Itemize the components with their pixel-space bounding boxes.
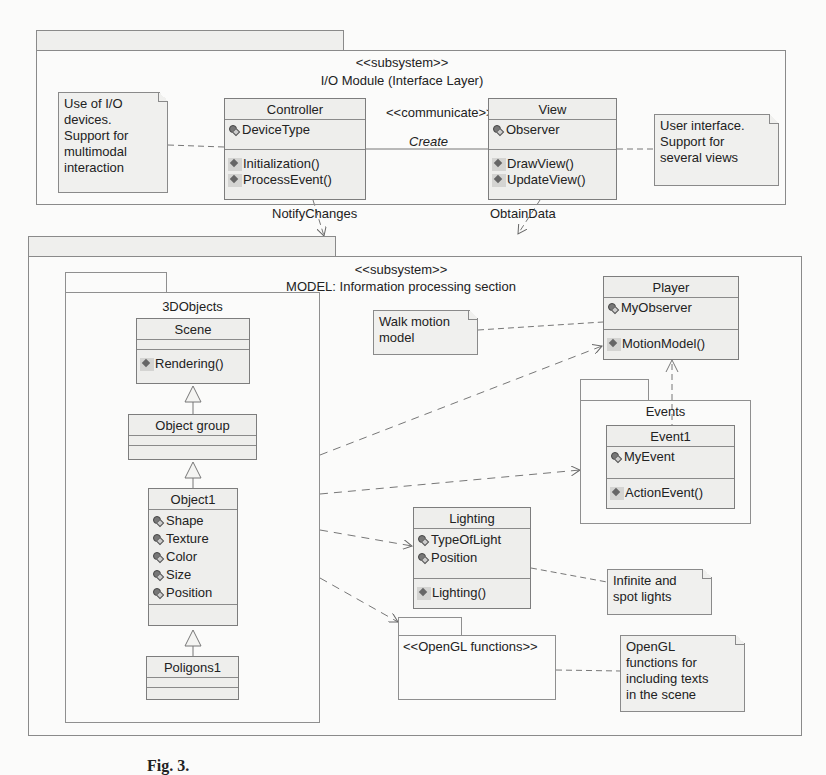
opengl-package-name: <<OpenGL functions>> (403, 639, 538, 654)
opengl-package-tab (398, 617, 462, 636)
note-walk-motion: Walk motion model (373, 310, 478, 355)
class-name: View (489, 99, 616, 120)
operation-icon (228, 158, 242, 171)
attribute-icon (152, 551, 165, 563)
attribute-icon (610, 451, 623, 463)
attribute-position: Position (152, 584, 234, 602)
class-view[interactable]: View Observer DrawView() UpdateView() (488, 98, 617, 200)
association-stereotype: <<communicate>> (386, 105, 494, 120)
events-package-tab (580, 379, 649, 401)
attribute-observer: Observer (492, 122, 613, 138)
dependency-notifychanges: NotifyChanges (272, 206, 357, 221)
io-stereotype: <<subsystem>> (37, 55, 767, 70)
class-object-group[interactable]: Object group (128, 414, 257, 460)
operation-actionevent: ActionEvent() (610, 485, 731, 501)
class-lighting[interactable]: Lighting TypeOfLight Position Lighting() (413, 507, 531, 609)
attribute-icon (417, 552, 430, 564)
operation-icon (417, 587, 431, 600)
class-name: Controller (225, 99, 365, 120)
attribute-icon (152, 569, 165, 581)
note-line: Walk motion (379, 314, 472, 330)
attribute-myevent: MyEvent (610, 449, 731, 465)
note-line: OpenGL (626, 639, 739, 655)
class-poligons1[interactable]: Poligons1 (146, 656, 239, 700)
operation-icon (492, 174, 506, 187)
attribute-icon (152, 515, 165, 527)
class-name: Poligons1 (147, 657, 238, 678)
attribute-color: Color (152, 548, 234, 566)
operation-icon (492, 158, 506, 171)
note-line: functions for (626, 655, 739, 671)
class-name: Event1 (607, 426, 734, 447)
objects-package-tab (65, 272, 167, 293)
note-line: interaction (64, 160, 162, 176)
opengl-package: <<OpenGL functions>> (398, 635, 556, 700)
io-title: I/O Module (Interface Layer) (37, 73, 767, 88)
note-line: spot lights (613, 589, 706, 605)
note-lights: Infinite and spot lights (607, 569, 712, 615)
note-line: including texts (626, 671, 739, 687)
attribute-icon (607, 302, 620, 314)
io-package-tab (36, 30, 344, 51)
class-controller[interactable]: Controller DeviceType Initialization() P… (224, 98, 366, 200)
operation-motionmodel: MotionModel() (607, 336, 735, 352)
attribute-position: Position (417, 549, 527, 567)
attribute-icon (228, 124, 241, 136)
operation-processevent: ProcessEvent() (228, 172, 362, 188)
attribute-texture: Texture (152, 530, 234, 548)
attribute-size: Size (152, 566, 234, 584)
class-name: Scene (137, 319, 249, 340)
operation-drawview: DrawView() (492, 156, 613, 172)
class-event1[interactable]: Event1 MyEvent ActionEvent() (606, 425, 735, 509)
operation-icon (607, 338, 621, 351)
class-name: Object group (129, 415, 256, 436)
class-name: Lighting (414, 508, 530, 529)
operation-initialization: Initialization() (228, 156, 362, 172)
note-user-interface: User interface. Support for several view… (654, 114, 779, 186)
note-line: in the scene (626, 687, 739, 703)
class-object1[interactable]: Object1 Shape Texture Color Size Positio… (148, 488, 238, 626)
model-package-tab (28, 236, 336, 257)
association-name: Create (409, 134, 448, 149)
note-line: Support for (64, 128, 162, 144)
attribute-shape: Shape (152, 512, 234, 530)
class-name: Player (604, 277, 738, 298)
class-name: Object1 (149, 489, 237, 510)
attribute-devicetype: DeviceType (228, 122, 362, 138)
events-package-name: Events (581, 404, 750, 419)
attribute-icon (492, 124, 505, 136)
attribute-icon (152, 587, 165, 599)
note-line: devices. (64, 112, 162, 128)
objects-package-name: 3DObjects (66, 299, 319, 314)
class-player[interactable]: Player MyObserver MotionModel() (603, 276, 739, 360)
figure-caption: Fig. 3. (147, 757, 189, 775)
operation-rendering: Rendering() (140, 356, 246, 372)
note-line: Infinite and (613, 573, 706, 589)
dependency-obtaindata: ObtainData (490, 206, 556, 221)
operation-icon (610, 487, 624, 500)
note-line: multimodal (64, 144, 162, 160)
attribute-typeoflight: TypeOfLight (417, 531, 527, 549)
attribute-icon (152, 533, 165, 545)
note-opengl: OpenGL functions for including texts in … (620, 635, 745, 712)
class-scene[interactable]: Scene Rendering() (136, 318, 250, 384)
note-io-devices: Use of I/O devices. Support for multimod… (58, 92, 168, 193)
note-line: User interface. (660, 118, 773, 134)
note-line: Support for (660, 134, 773, 150)
note-line: several views (660, 150, 773, 166)
attribute-myobserver: MyObserver (607, 300, 735, 316)
attribute-icon (417, 534, 430, 546)
note-line: Use of I/O (64, 96, 162, 112)
operation-lighting: Lighting() (417, 585, 527, 601)
operation-icon (140, 358, 154, 371)
operation-updateview: UpdateView() (492, 172, 613, 188)
operation-icon (228, 174, 242, 187)
note-line: model (379, 330, 472, 346)
